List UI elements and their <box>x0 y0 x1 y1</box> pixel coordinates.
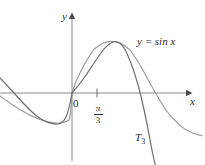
y-axis-label: y <box>62 11 67 22</box>
x-axis-label: x <box>190 96 195 107</box>
pi-denominator: 3 <box>91 116 105 125</box>
y-axis-arrowhead <box>69 13 75 20</box>
sin-curve-label: y = sin x <box>137 36 175 47</box>
pi-numerator: π <box>91 104 105 113</box>
figure-container: y x 0 π 3 y = sin x T3 <box>0 0 205 165</box>
origin-label: 0 <box>73 98 79 109</box>
x-tick-label-pi-over-3: π 3 <box>91 104 105 125</box>
taylor-t3-curve-label: T3 <box>135 132 145 146</box>
graph-plot-area <box>0 0 205 165</box>
t3-subscript: 3 <box>141 137 145 146</box>
